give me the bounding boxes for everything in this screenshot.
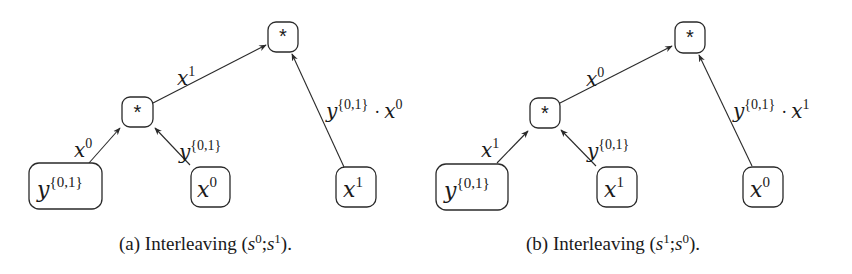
label-leafx-to-mid: y{0,1} (586, 137, 629, 163)
label-leafy-to-mid: x1 (481, 136, 499, 162)
leaf-base: y (36, 177, 50, 202)
leaf-base: x (197, 177, 210, 202)
star-operator: * (541, 102, 549, 124)
node-leaf-y: y{0,1} (29, 163, 102, 209)
leaf-sup: 0 (762, 174, 770, 190)
node-leaf-x-right: x0 (743, 167, 783, 207)
leaf-sup: {0,1} (456, 175, 489, 191)
node-leaf-x-mid: x1 (597, 167, 637, 207)
leaf-base: y (443, 178, 457, 203)
edge-mid-to-root (153, 45, 266, 103)
node-mid: * (530, 98, 560, 128)
leaf-sup: 1 (616, 174, 624, 190)
leaf-sup: 1 (355, 174, 363, 190)
label-mid-to-root: x0 (586, 65, 604, 91)
node-leaf-y: y{0,1} (436, 164, 508, 210)
leaf-sup: {0,1} (49, 174, 82, 190)
leaf-sup: 0 (209, 174, 217, 190)
label-leafy-to-mid: x0 (74, 136, 92, 162)
edge-leafy-to-mid (89, 128, 120, 163)
label-right-to-root: y{0,1}·x1 (732, 97, 810, 123)
node-root: * (268, 22, 298, 52)
star-operator: * (134, 101, 142, 123)
leaf-base: x (604, 177, 617, 202)
leaf-base: x (750, 177, 763, 202)
caption-b: (b) Interleaving (s1;s0). (526, 231, 700, 255)
interleaving-diagram: * * y{0,1} x0 x1 x0 y{0,1} x1 y{0,1}·x0 … (0, 0, 852, 274)
caption-a: (a) Interleaving (s0;s1). (119, 231, 292, 255)
label-right-to-root: y{0,1}·x0 (325, 97, 403, 123)
panel-a: * * y{0,1} x0 x1 x0 y{0,1} x1 y{0,1}·x0 … (29, 22, 403, 255)
label-mid-to-root: x1 (177, 64, 195, 90)
node-mid: * (122, 97, 153, 127)
node-leaf-x-right: x1 (336, 167, 376, 207)
panel-b: * * y{0,1} x1 x0 x1 y{0,1} x0 y{0,1}·x1 … (436, 22, 810, 255)
label-leafx-to-mid: y{0,1} (178, 138, 221, 164)
star-operator: * (686, 26, 694, 48)
leaf-base: x (343, 177, 356, 202)
node-leaf-x-mid: x0 (191, 167, 230, 207)
edge-mid-to-root (558, 46, 672, 104)
edge-leafy-to-mid (497, 131, 528, 163)
star-operator: * (279, 25, 287, 47)
node-root: * (675, 22, 705, 53)
